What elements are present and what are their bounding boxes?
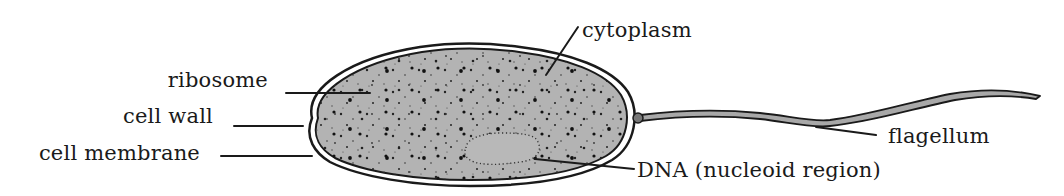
label-cytoplasm: cytoplasm [582, 20, 692, 41]
cell-drawing [0, 0, 1064, 196]
label-cell-wall: cell wall [70, 106, 213, 127]
cell-diagram: cytoplasm ribosome cell wall cell membra… [0, 0, 1064, 196]
label-ribosome: ribosome [120, 70, 268, 91]
label-cell-membrane: cell membrane [10, 143, 200, 164]
label-dna: DNA (nucleoid region) [637, 160, 881, 181]
nucleoid-region [465, 133, 540, 164]
basal-body [633, 113, 643, 123]
flagellum-shape [640, 90, 1040, 126]
label-flagellum: flagellum [888, 126, 990, 147]
flagellum-leader [816, 127, 876, 135]
